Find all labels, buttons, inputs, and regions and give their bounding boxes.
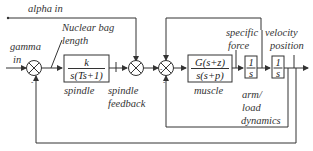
- specific-force-label-1: specific: [226, 27, 258, 38]
- svg-text:G(s+z): G(s+z): [195, 57, 225, 69]
- position-label: position: [269, 40, 304, 51]
- svg-text:k: k: [84, 57, 89, 68]
- muscle-block: G(s+z) s(s+p): [188, 55, 232, 82]
- arm-label-1: arm/: [242, 89, 263, 100]
- svg-text:1: 1: [275, 57, 280, 68]
- velocity-label: velocity: [265, 27, 298, 38]
- gamma-label-1: gamma: [10, 41, 41, 52]
- muscle-label: muscle: [194, 85, 223, 96]
- arm-label-2: load: [242, 102, 261, 113]
- integrator-block-2: 1 s: [272, 56, 284, 79]
- summing-junction-2: [129, 61, 144, 76]
- spindle-block: k s(Ts+1): [64, 55, 109, 82]
- svg-text:-: -: [31, 78, 34, 85]
- svg-text:s: s: [249, 68, 253, 79]
- summing-junction-1: -: [27, 61, 42, 86]
- nuclear-bag-label-1: Nuclear bag: [61, 22, 114, 33]
- block-diagram: alpha in gamma in - Nuclear bag length k…: [0, 0, 313, 151]
- spindle-feedback-label-1: spindle: [108, 85, 139, 96]
- svg-text:s: s: [276, 68, 280, 79]
- svg-text:s(Ts+1): s(Ts+1): [70, 70, 103, 82]
- nuclear-bag-leader: [51, 40, 62, 68]
- specific-force-label-2: force: [228, 40, 250, 51]
- nuclear-bag-label-2: length: [62, 35, 88, 46]
- alpha-dot: [7, 17, 9, 19]
- arm-label-3: dynamics: [241, 115, 281, 126]
- gamma-label-2: in: [13, 54, 21, 65]
- alpha-in-label: alpha in: [28, 3, 63, 14]
- svg-text:1: 1: [248, 57, 253, 68]
- svg-text:s(s+p): s(s+p): [196, 70, 224, 82]
- integrator-block-1: 1 s: [245, 56, 257, 79]
- spindle-feedback-label-2: feedback: [108, 98, 146, 109]
- spindle-label: spindle: [64, 85, 95, 96]
